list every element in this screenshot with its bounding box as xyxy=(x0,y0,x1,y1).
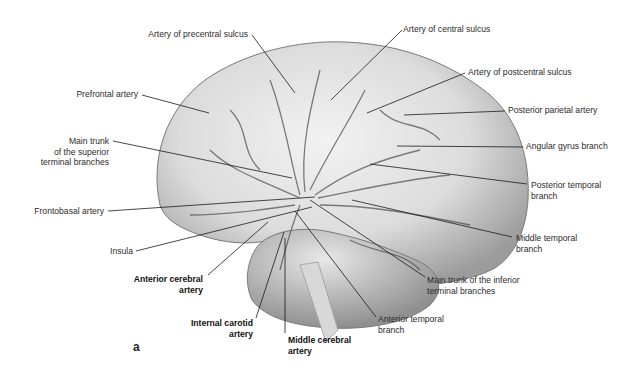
label-frontobasal-artery: Frontobasal artery xyxy=(20,206,104,217)
label-internal-carotid-artery: Internal carotid artery xyxy=(170,318,253,339)
label-line: of the superior xyxy=(30,147,109,158)
label-line: Posterior temporal xyxy=(531,180,601,191)
label-angular-gyrus-branch: Angular gyrus branch xyxy=(526,141,608,152)
label-line: Main trunk of the inferior xyxy=(427,275,520,286)
label-line: Anterior temporal xyxy=(378,314,444,325)
label-line: Middle cerebral xyxy=(288,335,351,346)
label-anterior-cerebral-artery: Anterior cerebral artery xyxy=(110,274,203,295)
label-line: terminal branches xyxy=(427,286,520,297)
label-central-sulcus-artery: Artery of central sulcus xyxy=(403,24,490,35)
label-inferior-trunk: Main trunk of the inferior terminal bran… xyxy=(427,275,520,296)
label-middle-temporal-branch: Middle temporal branch xyxy=(516,233,577,254)
label-line: terminal branches xyxy=(30,157,109,168)
label-line: branch xyxy=(378,325,444,336)
label-line: branch xyxy=(531,191,601,202)
label-prefrontal-artery: Prefrontal artery xyxy=(60,89,138,100)
label-line: artery xyxy=(170,329,253,340)
label-postcentral-sulcus-artery: Artery of postcentral sulcus xyxy=(468,67,572,78)
label-line: Internal carotid xyxy=(170,318,253,329)
label-line: Middle temporal xyxy=(516,233,577,244)
label-middle-cerebral-artery: Middle cerebral artery xyxy=(288,335,351,356)
label-posterior-parietal-artery: Posterior parietal artery xyxy=(508,105,597,116)
label-precentral-sulcus-artery: Artery of precentral sulcus xyxy=(133,29,248,40)
label-line: Main trunk xyxy=(30,136,109,147)
label-insula: Insula xyxy=(90,246,133,257)
label-line: artery xyxy=(110,285,203,296)
label-superior-trunk: Main trunk of the superior terminal bran… xyxy=(30,136,109,168)
label-line: Anterior cerebral xyxy=(110,274,203,285)
label-line: branch xyxy=(516,244,577,255)
label-anterior-temporal-branch: Anterior temporal branch xyxy=(378,314,444,335)
panel-letter: a xyxy=(133,340,140,354)
brain-artery-diagram: Artery of precentral sulcus Artery of ce… xyxy=(0,0,637,375)
label-line: artery xyxy=(288,346,351,357)
label-posterior-temporal-branch: Posterior temporal branch xyxy=(531,180,601,201)
